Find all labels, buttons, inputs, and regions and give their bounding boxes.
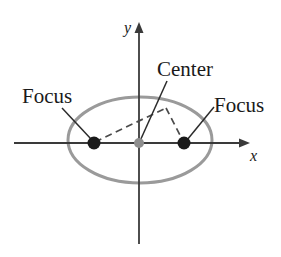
y-axis-arrowhead <box>135 22 144 33</box>
x-axis-label: x <box>249 147 257 164</box>
dashed-point-to-right-focus <box>166 108 183 141</box>
diagram-canvas: Focus Center Focus x y <box>0 0 281 257</box>
right-focus-point <box>178 137 191 150</box>
leader-line-focus-right <box>187 107 214 140</box>
leader-line-center <box>140 81 167 141</box>
center-point <box>134 138 144 148</box>
ellipse-figure: Focus Center Focus x y <box>0 0 281 257</box>
x-axis-arrowhead <box>239 139 250 148</box>
y-axis-label: y <box>122 19 132 37</box>
focus-right-label: Focus <box>214 93 264 117</box>
dashed-left-focus-to-point <box>95 108 166 142</box>
left-focus-point <box>88 137 101 150</box>
focus-left-label: Focus <box>22 84 72 108</box>
center-label: Center <box>157 57 213 81</box>
